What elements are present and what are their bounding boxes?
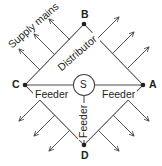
service-arrow	[19, 100, 40, 121]
service-arrow	[128, 100, 149, 121]
service-arrow	[98, 130, 119, 151]
feeder-label-left: Feeder	[33, 89, 70, 100]
service-arrows-edge-dc	[19, 100, 70, 151]
service-arrow	[49, 19, 70, 40]
vertex-label-a: A	[149, 79, 157, 90]
service-arrow	[113, 32, 134, 53]
vertex-label-d: D	[81, 150, 89, 161]
vertex-dot-c	[23, 83, 28, 88]
vertex-dot-a	[141, 83, 146, 88]
diagram-canvas: S B A C D Feeder Feeder Feeder Distribut…	[0, 0, 162, 166]
feeder-label-bottom: Feeder	[78, 103, 89, 140]
vertex-dot-b	[82, 22, 87, 27]
service-arrows-edge-ad	[98, 100, 149, 151]
service-arrow	[34, 115, 55, 136]
service-arrow	[113, 115, 134, 136]
service-arrows-edge-ba	[98, 17, 149, 68]
service-arrow	[128, 47, 149, 68]
vertex-label-c: C	[12, 79, 20, 90]
service-arrow	[19, 49, 40, 70]
service-arrow	[98, 17, 119, 38]
feeder-label-right: Feeder	[100, 89, 137, 100]
service-arrow	[49, 130, 70, 151]
vertex-label-b: B	[81, 9, 89, 20]
service-arrow	[34, 34, 55, 55]
vertex-dot-d	[82, 143, 87, 148]
substation-label: S	[80, 80, 87, 90]
